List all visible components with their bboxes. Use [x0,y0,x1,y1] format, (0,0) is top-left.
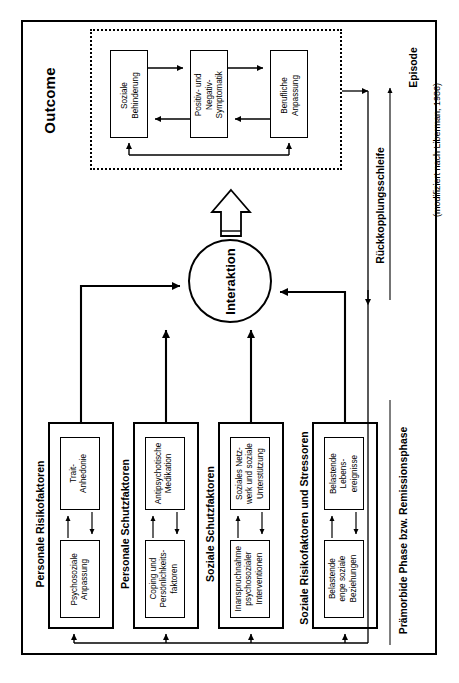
feedback-loop-text: Rückkopplungsschleife [375,147,386,264]
group-3-bot-line1: Belastende [328,555,338,603]
factor-box-belastende-enge-soziale-beziehungen: Belastende enge soziale Beziehungen [324,540,364,618]
group-0-top-line2: Anhedonie [80,454,90,493]
group-label-soziale-risikofaktoren-stressoren: Soziale Risikofaktoren und Stressoren [295,430,313,625]
label-episode: Episode [404,32,422,102]
outcome-box-1-line3: Symptomatik [215,71,226,118]
interaktion-circle: Interaktion [188,239,272,323]
factor-box-coping-persoenlichkeitsfaktoren: Coping und Persönlichkeits- faktoren [145,540,185,618]
outcome-box-0-line2: Behinderung [130,72,141,118]
group-2-top-line2: werk und soziale [245,443,255,504]
factor-box-belastende-lebensereignisse: Belastende Lebens- ereignisse [324,437,364,510]
label-praemorbide-phase: Prämorbide Phase bzw. Remissionsphase [395,420,413,640]
group-0-bot-line2: Anpassung [80,553,90,605]
group-label-personale-risikofaktoren: Personale Risikofaktoren [31,444,49,604]
group-3-top-line3: ereignisse [349,453,359,494]
outcome-box-berufliche-anpassung: Berufliche Anpassung [270,50,308,138]
factor-box-inanspruchnahme-interventionen: Inanspruchnahme psychosozialer Intervent… [230,540,270,618]
group-2-bot-line3: Interventionen [255,546,265,612]
factor-box-psychosoziale-anpassung: Psychosoziale Anpassung [60,540,100,618]
group-3-top-line2: Lebens- [339,453,349,494]
credit-text: (modifiziert nach Liberman, 1986) [432,83,442,217]
outcome-box-0-line1: Soziale [120,72,131,118]
group-1-bot-line3: faktoren [170,550,180,608]
outcome-box-soziale-behinderung: Soziale Behinderung [110,50,148,138]
label-credit: (modifiziert nach Liberman, 1986) [428,40,446,260]
episode-text: Episode [408,47,419,87]
group-3-top-line1: Belastende [328,453,338,494]
group-2-bot-line1: Inanspruchnahme [234,546,244,612]
group-0-bot-line1: Psychosoziale [70,553,80,605]
group-0-label-text: Personale Risikofaktoren [34,460,46,587]
group-1-bot-line2: Persönlichkeits- [160,550,170,608]
outcome-box-positiv-negativ-symptomatik: Positiv- und Negativ- Symptomatik [190,50,228,138]
figure-canvas: Outcome Soziale Behinderung Positiv- und… [0,0,459,683]
group-1-top-line1: Antipsychotische [155,443,165,504]
group-2-top-line3: Unterstützung [255,443,265,504]
group-3-bot-line3: Beziehungen [349,555,359,603]
group-2-top-line1: Soziales Netz- [234,443,244,504]
factor-box-antipsychotische-medikation: Antipsychotische Medikation [145,437,185,510]
interaktion-label: Interaktion [223,248,238,314]
group-1-top-line2: Medikation [165,443,175,504]
group-1-bot-line1: Coping und [149,550,159,608]
label-rueckkopplungsschleife: Rückkopplungsschleife [371,120,389,290]
outcome-label-text: Outcome [41,67,58,133]
outcome-box-2-line1: Berufliche [280,75,291,116]
outcome-box-2-line2: Anpassung [290,75,301,116]
outcome-box-1-line2: Negativ- [205,71,216,118]
group-label-personale-schutzfaktoren: Personale Schutzfaktoren [116,444,134,604]
outcome-box-1-line1: Positiv- und [194,71,205,118]
group-2-bot-line2: psychosozialer [245,546,255,612]
group-1-label-text: Personale Schutzfaktoren [119,459,131,589]
praemorbide-text: Prämorbide Phase bzw. Remissionsphase [399,426,410,634]
factor-box-soziales-netzwerk: Soziales Netz- werk und soziale Unterstü… [230,437,270,510]
outcome-label: Outcome [36,52,62,148]
group-label-soziale-schutzfaktoren: Soziale Schutzfaktoren [201,444,219,604]
group-0-top-line1: Trait- [70,454,80,493]
factor-box-trait-anhedonie: Trait- Anhedonie [60,437,100,510]
group-3-bot-line2: enge soziale [339,555,349,603]
group-2-label-text: Soziale Schutzfaktoren [204,466,216,582]
group-3-label-text: Soziale Risikofaktoren und Stressoren [298,431,310,625]
